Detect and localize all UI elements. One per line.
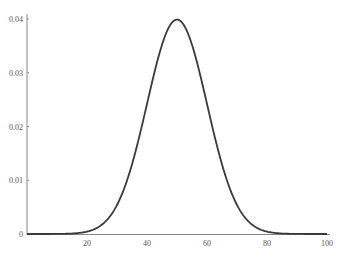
- x-tick-label: 60: [203, 239, 211, 248]
- y-tick-label: 0.04: [9, 15, 23, 24]
- x-tick-label: 20: [83, 239, 91, 248]
- y-tick-label: 0.03: [9, 69, 23, 78]
- y-tick-label: 0: [19, 230, 23, 239]
- x-axis: 20406080100: [27, 235, 333, 249]
- y-tick-label: 0.01: [9, 176, 23, 185]
- y-axis: 00.010.020.030.04: [9, 14, 29, 239]
- density-curve: [27, 20, 327, 234]
- x-tick-label: 40: [143, 239, 151, 248]
- y-tick-label: 0.02: [9, 123, 23, 132]
- x-ticks: 20406080100: [83, 239, 333, 248]
- x-tick-label: 80: [263, 239, 271, 248]
- chart: 00.010.020.030.04 20406080100: [0, 0, 344, 262]
- y-ticks: 00.010.020.030.04: [9, 15, 29, 239]
- x-tick-label: 100: [321, 239, 333, 248]
